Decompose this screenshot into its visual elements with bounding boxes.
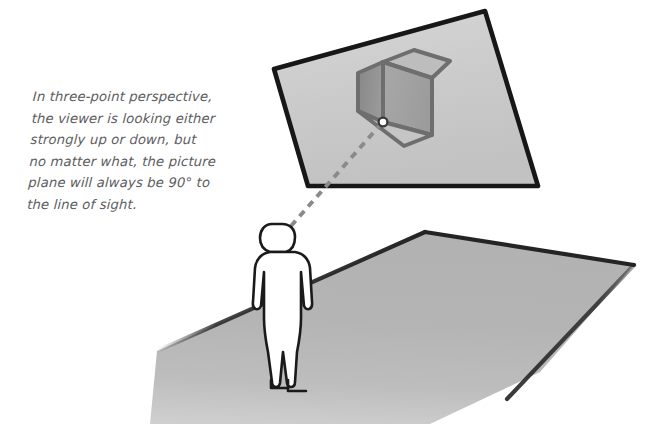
- ground-plane: [150, 232, 634, 424]
- eye-point-marker: [379, 118, 388, 127]
- caption-text: In three-point perspective, the viewer i…: [27, 86, 249, 216]
- picture-plane: [274, 11, 538, 186]
- ground-plane-surface: [150, 232, 634, 424]
- illustration-canvas: In three-point perspective, the viewer i…: [0, 0, 664, 428]
- viewer-head: [260, 224, 295, 252]
